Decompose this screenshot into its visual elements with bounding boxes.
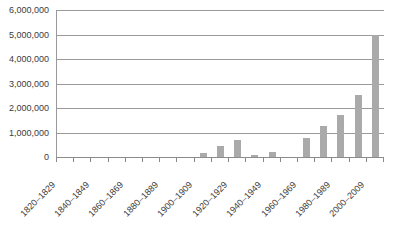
- y-tick-label: 3,000,000: [9, 79, 49, 89]
- bar: [234, 140, 241, 157]
- plot-area: [56, 10, 384, 157]
- x-tick-label: 1840–1849: [52, 180, 91, 219]
- x-tick-label: 1860–1869: [87, 180, 126, 219]
- y-tick-label: 2,000,000: [9, 103, 49, 113]
- y-tick-label: 1,000,000: [9, 128, 49, 138]
- bar: [320, 126, 327, 157]
- x-tick-label: 1960–1969: [259, 180, 298, 219]
- y-tick-label: 4,000,000: [9, 54, 49, 64]
- y-tick-label: 0: [44, 152, 49, 162]
- x-tick-label: 1820–1829: [18, 180, 57, 219]
- bar: [303, 138, 310, 157]
- y-tick-label: 6,000,000: [9, 5, 49, 15]
- bar-chart: 01,000,0002,000,0003,000,0004,000,0005,0…: [0, 0, 394, 226]
- bar: [372, 35, 379, 157]
- y-tick-label: 5,000,000: [9, 30, 49, 40]
- x-tick-label: 1940–1949: [224, 180, 263, 219]
- bar: [217, 146, 224, 157]
- x-tick-label: 1920–1929: [190, 180, 229, 219]
- bar: [355, 95, 362, 157]
- x-tick-label: 2000–2009: [328, 180, 367, 219]
- bar: [337, 115, 344, 157]
- x-tick-label: 1880–1889: [121, 180, 160, 219]
- y-axis: 01,000,0002,000,0003,000,0004,000,0005,0…: [0, 0, 55, 158]
- x-tick-label: 1900–1909: [156, 180, 195, 219]
- x-tick-label: 1980–1989: [293, 180, 332, 219]
- bars-container: [57, 10, 384, 157]
- x-axis: 1820–18291840–18491860–18691880–18891900…: [0, 162, 394, 226]
